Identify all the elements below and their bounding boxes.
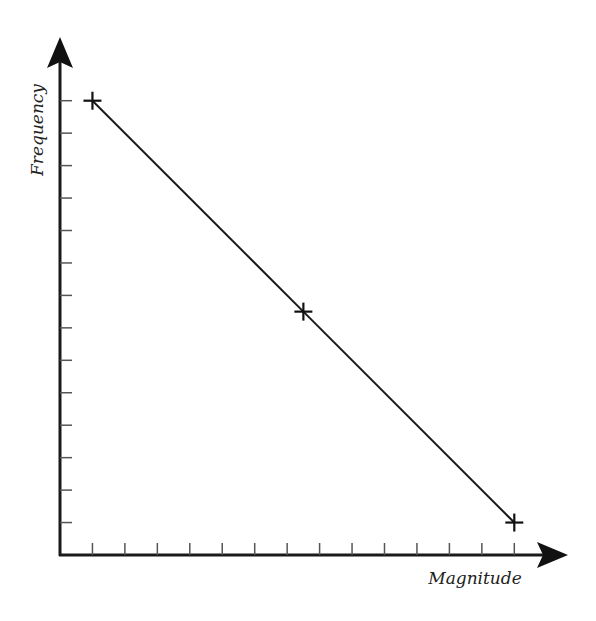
y-ticks xyxy=(60,101,72,523)
x-axis-label: Magnitude xyxy=(427,568,522,588)
x-ticks xyxy=(92,543,514,555)
chart: Frequency Magnitude xyxy=(0,0,596,621)
y-axis-label: Frequency xyxy=(27,84,47,177)
